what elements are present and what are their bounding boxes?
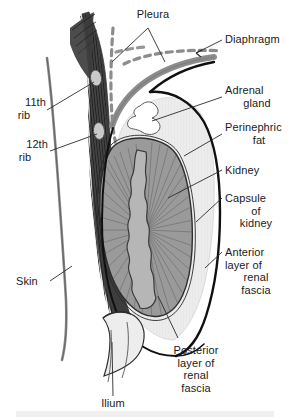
label-perinephric-fat: Perinephric fat bbox=[225, 121, 293, 146]
label-anterior-fascia-line4: fascia bbox=[225, 284, 287, 297]
label-rib-12: 12th rib bbox=[2, 138, 48, 163]
label-capsule-line2: of bbox=[225, 205, 287, 218]
label-ilium: Ilium bbox=[90, 397, 136, 410]
skin-layer bbox=[47, 58, 66, 360]
label-capsule-line1: Capsule bbox=[225, 192, 287, 205]
label-rib-11-line1: 11th bbox=[2, 96, 46, 109]
label-capsule-line3: kidney bbox=[225, 217, 287, 230]
label-anterior-fascia-line2: layer of bbox=[225, 259, 287, 272]
label-skin: Skin bbox=[16, 275, 56, 288]
label-adrenal-gland: Adrenal gland bbox=[225, 84, 289, 109]
footer-band bbox=[16, 411, 274, 417]
label-rib-11-line2: rib bbox=[2, 109, 46, 122]
label-anterior-fascia-line1: Anterior bbox=[225, 246, 287, 259]
label-anterior-layer-renal-fascia: Anterior layer of renal fascia bbox=[225, 246, 287, 296]
label-posterior-fascia-line3: renal bbox=[160, 369, 232, 382]
label-posterior-layer-renal-fascia: Posterior layer of renal fascia bbox=[160, 344, 232, 394]
kidney-anatomy-figure: Pleura Diaphragm Adrenal gland Perinephr… bbox=[0, 0, 294, 420]
label-kidney: Kidney bbox=[225, 164, 285, 177]
label-posterior-fascia-line1: Posterior bbox=[160, 344, 232, 357]
leader-pleura-left bbox=[112, 28, 148, 62]
label-adrenal-gland-line2: gland bbox=[225, 97, 289, 110]
label-capsule-of-kidney: Capsule of kidney bbox=[225, 192, 287, 230]
label-rib-11: 11th rib bbox=[2, 96, 46, 121]
label-perinephric-fat-line2: fat bbox=[225, 134, 293, 147]
ilium-bone bbox=[103, 312, 144, 382]
label-rib-12-line1: 12th bbox=[2, 138, 48, 151]
label-adrenal-gland-line1: Adrenal bbox=[225, 84, 289, 97]
label-pleura: Pleura bbox=[122, 8, 184, 21]
leader-rib-11 bbox=[47, 82, 94, 110]
leader-pleura-right bbox=[148, 28, 165, 62]
label-anterior-fascia-line3: renal bbox=[225, 271, 287, 284]
label-perinephric-fat-line1: Perinephric bbox=[225, 121, 293, 134]
label-posterior-fascia-line2: layer of bbox=[160, 357, 232, 370]
label-diaphragm: Diaphragm bbox=[225, 33, 294, 46]
label-rib-12-line2: rib bbox=[2, 151, 48, 164]
label-posterior-fascia-line4: fascia bbox=[160, 382, 232, 395]
